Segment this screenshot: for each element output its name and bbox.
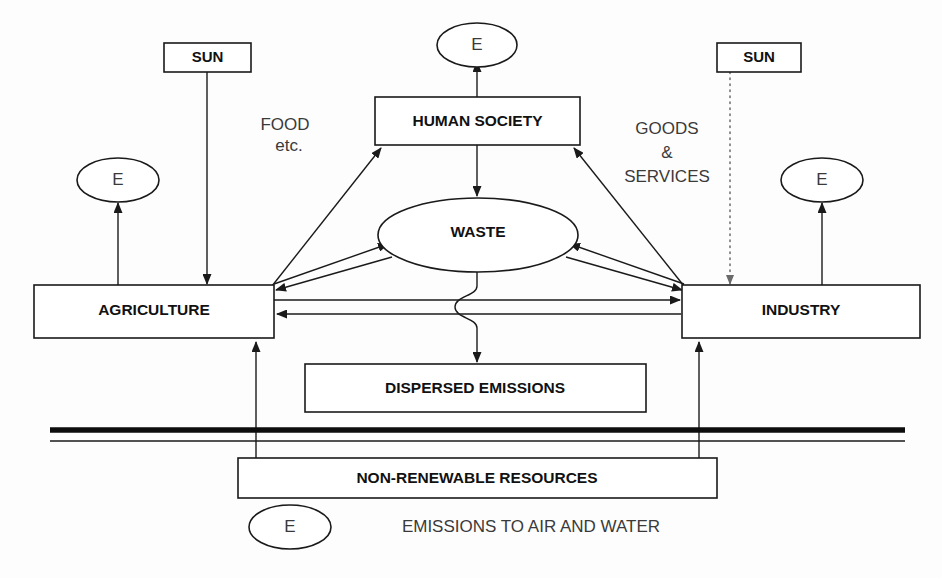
node-sun-right[interactable]: SUN bbox=[717, 43, 801, 72]
industry-label: INDUSTRY bbox=[762, 301, 841, 318]
node-e-top[interactable]: E bbox=[437, 23, 517, 67]
flow-label-goods: GOODS bbox=[635, 119, 698, 138]
flow-waste-to-agriculture bbox=[276, 257, 392, 290]
node-waste[interactable]: WASTE bbox=[378, 198, 578, 272]
node-e-left[interactable]: E bbox=[77, 158, 159, 202]
waste-label: WASTE bbox=[450, 223, 505, 240]
e-top-label: E bbox=[471, 35, 482, 54]
node-industry[interactable]: INDUSTRY bbox=[682, 285, 920, 338]
e-right-label: E bbox=[816, 170, 827, 189]
legend-emissions-caption: EMISSIONS TO AIR AND WATER bbox=[402, 517, 660, 536]
node-dispersed-emissions[interactable]: DISPERSED EMISSIONS bbox=[305, 364, 646, 412]
legend-emissions: E EMISSIONS TO AIR AND WATER bbox=[249, 505, 660, 549]
sun-left-label: SUN bbox=[192, 48, 224, 65]
flow-label-food: FOOD bbox=[260, 115, 309, 134]
node-agriculture[interactable]: AGRICULTURE bbox=[34, 285, 274, 338]
flow-agriculture-to-waste bbox=[274, 244, 388, 284]
agriculture-label: AGRICULTURE bbox=[98, 301, 210, 318]
non-renewable-resources-label: NON-RENEWABLE RESOURCES bbox=[356, 469, 597, 486]
flow-waste-to-dispersed-emissions bbox=[455, 272, 477, 362]
flow-diagram-svg: SUN SUN E E E HUMAN SOCIETY bbox=[0, 0, 942, 578]
e-legend-label: E bbox=[284, 517, 295, 536]
node-non-renewable-resources[interactable]: NON-RENEWABLE RESOURCES bbox=[238, 458, 717, 498]
sun-right-label: SUN bbox=[743, 48, 775, 65]
diagram-canvas: SUN SUN E E E HUMAN SOCIETY bbox=[0, 0, 942, 578]
dispersed-emissions-label: DISPERSED EMISSIONS bbox=[385, 379, 565, 396]
node-e-right[interactable]: E bbox=[781, 158, 863, 202]
flow-label-services: SERVICES bbox=[624, 167, 710, 186]
flow-label-food-etc: etc. bbox=[275, 136, 302, 155]
node-human-society[interactable]: HUMAN SOCIETY bbox=[375, 97, 580, 145]
flow-label-ampersand: & bbox=[661, 143, 673, 162]
human-society-label: HUMAN SOCIETY bbox=[412, 112, 543, 129]
e-left-label: E bbox=[112, 170, 123, 189]
node-sun-left[interactable]: SUN bbox=[164, 43, 251, 72]
